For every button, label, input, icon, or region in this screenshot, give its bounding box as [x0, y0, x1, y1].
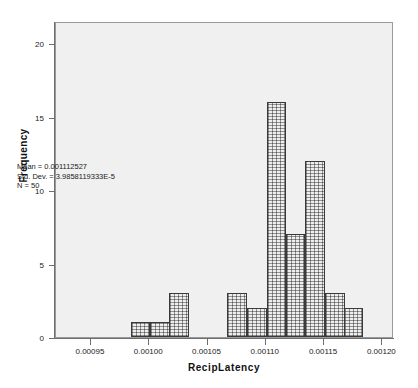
x-axis-tick-label: 0.00105 — [177, 347, 237, 357]
stat-mean: Mean = 0.001112527 — [17, 162, 115, 172]
stat-stddev: Std. Dev. = 3.9858119333E-5 — [17, 172, 115, 182]
x-axis-tick-label: 0.00110 — [235, 347, 295, 357]
x-axis-tick-label: 0.00115 — [293, 347, 353, 357]
y-axis-tick-label: 5 — [14, 261, 44, 270]
x-axis-title: RecipLatency — [55, 362, 393, 373]
histogram-bar — [227, 293, 246, 337]
x-axis-tick — [381, 339, 382, 345]
histogram-bar — [305, 161, 324, 337]
histogram-bar — [325, 293, 344, 337]
histogram-bar — [169, 293, 188, 337]
statistics-annotation: Mean = 0.001112527 Std. Dev. = 3.9858119… — [17, 162, 115, 191]
stat-n: N = 50 — [17, 181, 115, 191]
histogram-bar — [150, 322, 169, 337]
histogram-bar — [131, 322, 150, 337]
y-axis-tick — [49, 338, 55, 339]
y-axis-title: Frequency — [18, 111, 29, 201]
x-axis-tick-label: 0.00100 — [118, 347, 178, 357]
y-axis-tick-label: 0 — [14, 334, 44, 343]
x-axis-tick-label: 0.00095 — [60, 347, 120, 357]
histogram-bar — [247, 308, 266, 337]
y-axis-tick-label: 20 — [14, 40, 44, 49]
x-axis-line — [54, 338, 394, 339]
x-axis-tick — [265, 339, 266, 345]
histogram-bar — [344, 308, 363, 337]
histogram-bar — [286, 234, 305, 337]
x-axis-tick — [207, 339, 208, 345]
histogram-bar — [267, 102, 286, 337]
x-axis-tick — [323, 339, 324, 345]
x-axis-tick — [90, 339, 91, 345]
x-axis-tick — [148, 339, 149, 345]
x-axis-tick-label: 0.00120 — [351, 347, 411, 357]
histogram-figure: 05101520 0.000950.001000.001050.001100.0… — [0, 0, 418, 388]
